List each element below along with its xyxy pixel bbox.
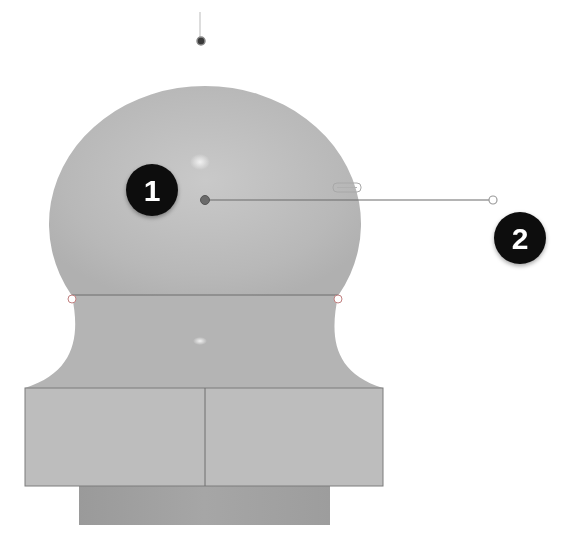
base-box — [25, 388, 383, 486]
plinth — [79, 485, 330, 525]
diagram-canvas: 1 2 — [0, 0, 575, 533]
callout-1-label: 1 — [144, 174, 161, 207]
leader-line-endpoint[interactable] — [489, 196, 497, 204]
callout-2-label: 2 — [512, 222, 529, 255]
callout-marker-2: 2 — [494, 212, 546, 264]
sphere — [49, 86, 361, 296]
top-handle-point[interactable] — [197, 37, 205, 45]
neck-highlight — [193, 337, 207, 345]
sphere-center-point[interactable] — [201, 196, 210, 205]
callout-marker-1: 1 — [126, 164, 178, 216]
equator-handle-right[interactable] — [334, 295, 342, 303]
equator-handle-left[interactable] — [68, 295, 76, 303]
sphere-highlight — [190, 154, 210, 170]
